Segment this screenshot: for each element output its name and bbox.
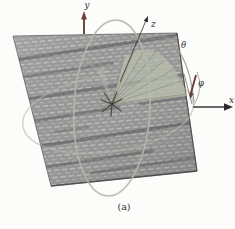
y-axis-label: y [84, 0, 90, 10]
x-axis: x [193, 95, 234, 111]
z-axis-label: z [150, 19, 156, 29]
phi-label: φ [198, 78, 204, 88]
metasurface-plane [8, 33, 206, 186]
y-axis-arrowhead-icon [81, 11, 87, 20]
figure-panel: z x y θ φ (a) [0, 0, 235, 229]
metasurface-beam-diagram: z x y θ φ (a) [0, 0, 235, 229]
figure-caption: (a) [117, 201, 130, 212]
x-axis-label: x [229, 95, 234, 105]
theta-label: θ [181, 40, 186, 50]
y-axis: y [81, 0, 89, 34]
z-axis-arrowhead-icon [144, 16, 148, 22]
